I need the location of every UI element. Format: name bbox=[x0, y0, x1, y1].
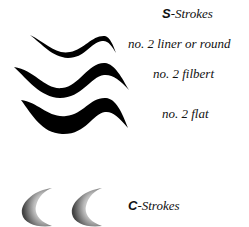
s-heading-rest: -Strokes bbox=[171, 6, 213, 21]
label-filbert: no. 2 filbert bbox=[153, 66, 214, 82]
c-heading-rest: -Strokes bbox=[137, 198, 179, 213]
s-strokes-heading: S-Strokes bbox=[162, 6, 213, 22]
label-flat: no. 2 flat bbox=[162, 106, 209, 122]
s-stroke-liner bbox=[30, 35, 116, 58]
s-letter: S bbox=[162, 6, 171, 21]
strokes-illustration bbox=[0, 0, 249, 227]
c-stroke-1 bbox=[22, 188, 52, 227]
label-liner: no. 2 liner or round bbox=[128, 36, 230, 52]
c-strokes-heading: C-Strokes bbox=[128, 198, 180, 214]
s-stroke-filbert bbox=[14, 63, 129, 98]
c-letter: C bbox=[128, 198, 137, 213]
s-stroke-flat bbox=[21, 98, 128, 134]
c-stroke-2 bbox=[72, 188, 102, 227]
